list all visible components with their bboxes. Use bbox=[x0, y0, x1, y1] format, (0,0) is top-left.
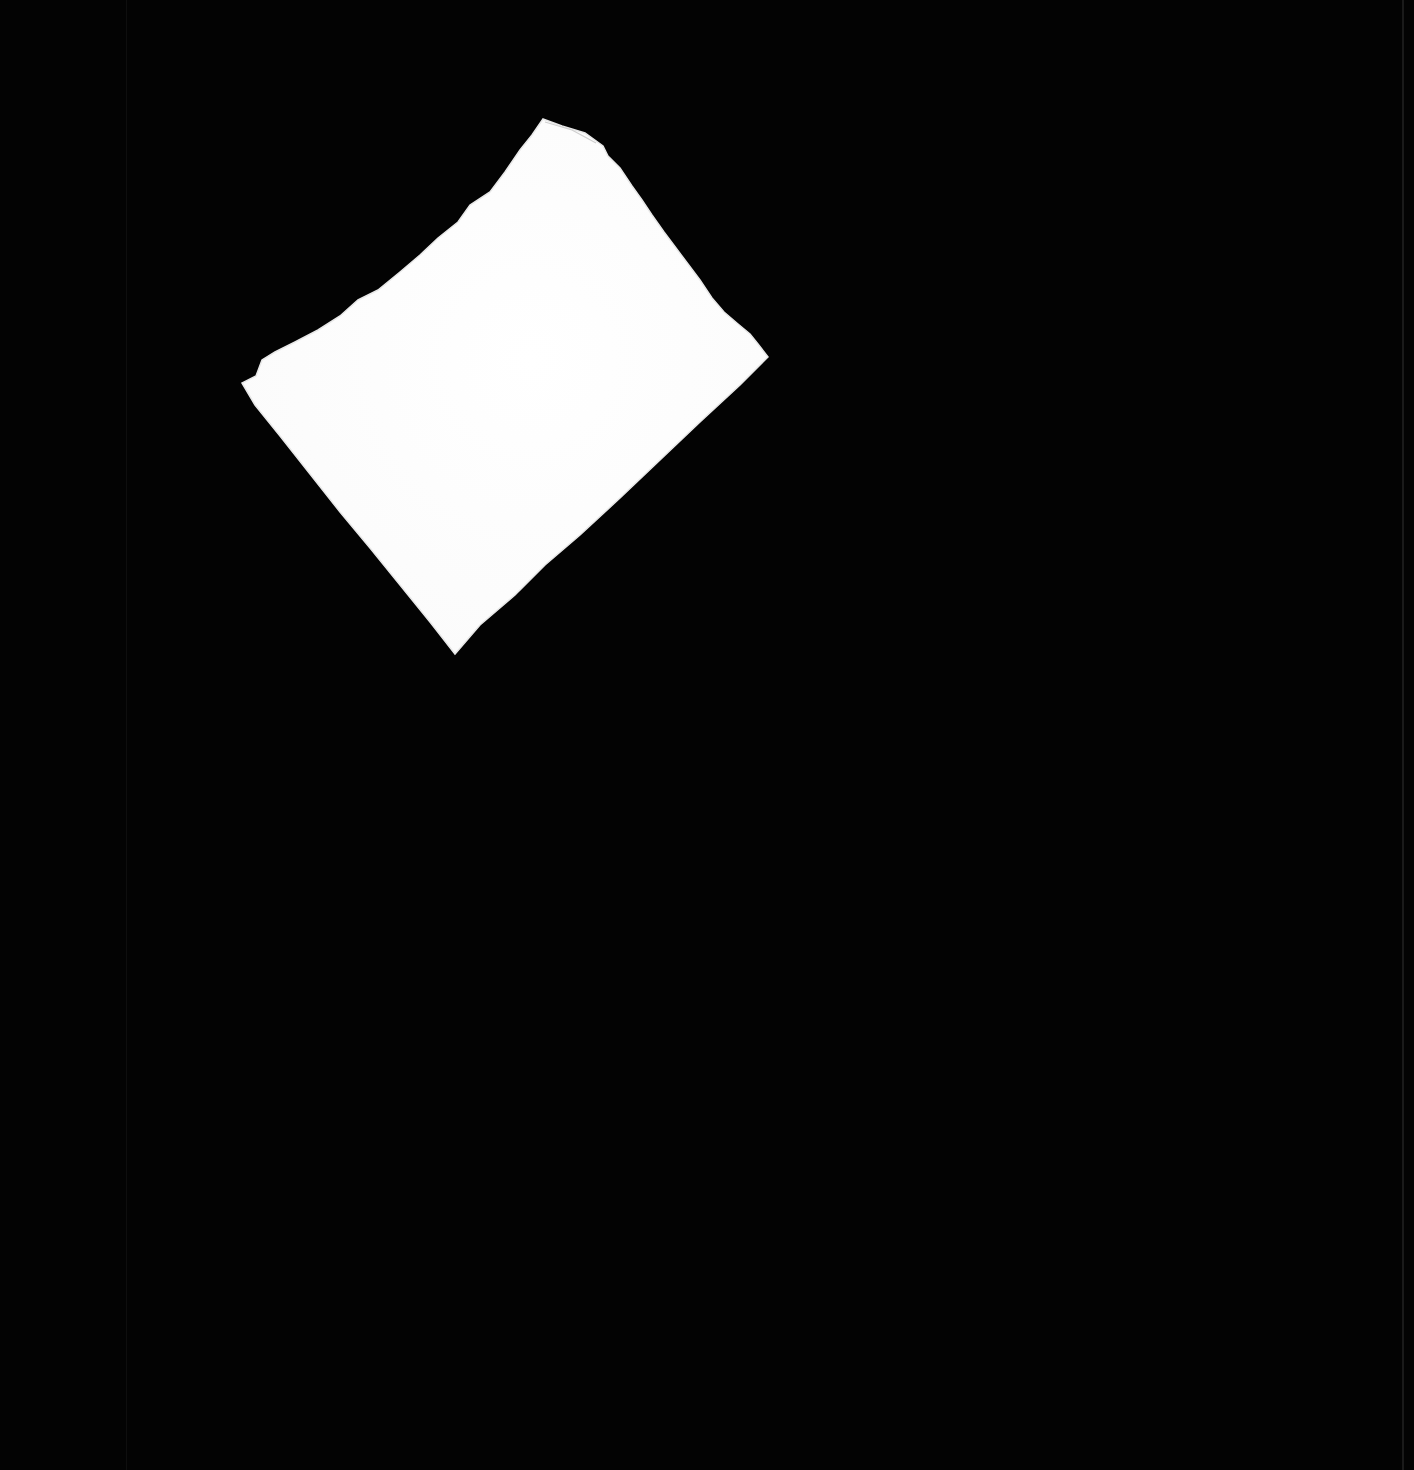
scanned-image-canvas: Blank torn scrap of white paper, rotated… bbox=[0, 0, 1414, 1470]
torn-paper-scrap bbox=[0, 0, 1414, 1470]
paper-shape bbox=[242, 119, 768, 654]
